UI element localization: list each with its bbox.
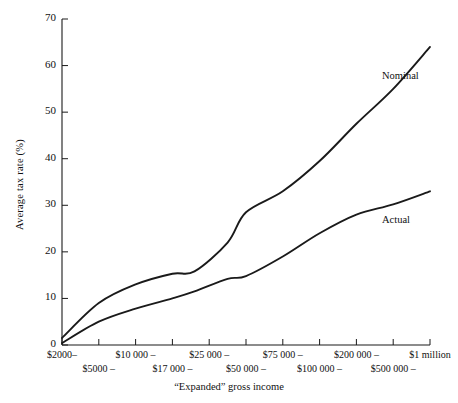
series-label-actual: Actual <box>382 214 410 225</box>
x-tick-label: $1 million <box>393 349 458 360</box>
y-tick-label: 50 <box>26 104 56 116</box>
x-tick-label: $75 000 – <box>246 349 320 360</box>
y-tick-label: 30 <box>26 197 56 209</box>
x-tick-label: $500 000 – <box>356 363 430 374</box>
x-tick-label: $17 000 – <box>135 363 209 374</box>
y-tick-label: 10 <box>26 290 56 302</box>
x-axis-title: “Expanded” gross income <box>0 381 458 392</box>
y-tick-label: 20 <box>26 244 56 256</box>
x-tick-label: $50 000 – <box>209 363 283 374</box>
y-axis-title: Average tax rate (%) <box>14 139 25 230</box>
chart-figure: Average tax rate (%) 010203040506070 $20… <box>0 0 458 403</box>
series-label-nominal: Nominal <box>382 70 419 81</box>
series-line-nominal <box>62 47 430 338</box>
x-tick-label: $25 000 – <box>172 349 246 360</box>
x-tick-label: $2000– <box>25 349 99 360</box>
y-tick-label: 0 <box>26 337 56 349</box>
y-tick-label: 60 <box>26 58 56 70</box>
x-tick-label: $100 000 – <box>283 363 357 374</box>
x-tick-label: $5000 – <box>62 363 136 374</box>
x-axis-ticks <box>62 339 430 345</box>
chart-plot-area <box>0 0 458 403</box>
series-line-actual <box>62 191 430 343</box>
y-axis-ticks <box>62 19 68 345</box>
y-tick-label: 70 <box>26 11 56 23</box>
y-tick-label: 40 <box>26 151 56 163</box>
x-tick-label: $10 000 – <box>99 349 173 360</box>
x-tick-label: $200 000 – <box>319 349 393 360</box>
